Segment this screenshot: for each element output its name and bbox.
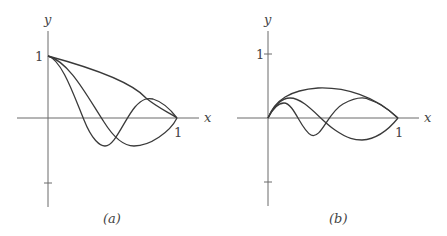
y-axis-label: y bbox=[43, 12, 52, 27]
x-tick-label-1: 1 bbox=[174, 125, 182, 140]
y-tick-label-1: 1 bbox=[256, 47, 264, 62]
curve-1 bbox=[48, 56, 177, 118]
x-axis-label: x bbox=[424, 110, 432, 125]
figure: y x 1 1 (a) y x 1 1 (b) bbox=[0, 0, 447, 236]
panel-caption: (a) bbox=[103, 211, 121, 226]
x-tick-label-1: 1 bbox=[395, 125, 403, 140]
curve-3 bbox=[268, 98, 398, 135]
panel-caption: (b) bbox=[329, 211, 347, 226]
x-axis-label: x bbox=[204, 110, 212, 125]
panel-b: y x 1 1 (b) bbox=[237, 12, 432, 226]
y-tick-label-1: 1 bbox=[35, 49, 43, 64]
y-axis-label: y bbox=[263, 12, 272, 27]
panel-a: y x 1 1 (a) bbox=[17, 12, 212, 226]
